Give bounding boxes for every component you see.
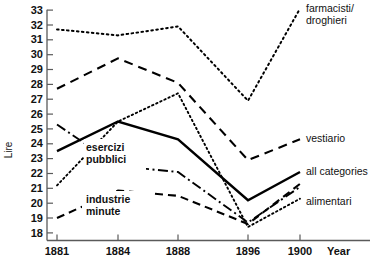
y-tick-label: 31 <box>31 33 43 45</box>
y-tick-labels: 18 19 20 21 22 23 24 25 26 27 28 29 30 3… <box>31 4 44 239</box>
alimentari-label: alimentari <box>306 195 352 207</box>
y-tick-label: 30 <box>31 48 43 60</box>
y-tick-label: 29 <box>31 63 43 75</box>
y-tick-marks <box>47 10 53 233</box>
farmacisti-droghieri-label: farmacisti/ droghieri <box>306 2 354 26</box>
vestiario-label: vestiario <box>306 132 345 144</box>
x-tick-label: 1900 <box>288 245 312 257</box>
x-tick-label: 1888 <box>166 245 190 257</box>
y-tick-label: 22 <box>31 167 43 179</box>
y-tick-label: 20 <box>31 197 43 209</box>
y-axis-label: Lire <box>3 141 14 158</box>
x-tick-label: 1884 <box>106 245 131 257</box>
y-tick-label: 27 <box>31 93 43 105</box>
chart-svg: Lire 18 19 20 21 22 23 24 25 26 27 28 29… <box>0 0 379 269</box>
x-axis-label: Year <box>327 245 351 257</box>
esercizi-pubblici-annotation: esercizi pubblici <box>86 141 126 165</box>
y-tick-label: 33 <box>31 4 43 16</box>
y-tick-label: 25 <box>31 123 43 135</box>
farmacisti-droghieri-label-line2: droghieri <box>306 14 347 26</box>
y-tick-label: 23 <box>31 152 43 164</box>
x-tick-label: 1881 <box>45 245 69 257</box>
y-tick-label: 26 <box>31 108 43 120</box>
x-tick-marks <box>57 235 300 241</box>
line-chart: Lire 18 19 20 21 22 23 24 25 26 27 28 29… <box>0 0 379 269</box>
x-tick-labels: 1881 1884 1888 1896 1900 Year <box>45 245 351 257</box>
y-tick-label: 21 <box>31 182 43 194</box>
esercizi-pubblici-annotation-line2: pubblici <box>86 153 126 165</box>
x-tick-label: 1896 <box>236 245 260 257</box>
industrie-minute-annotation-line1: industrie <box>86 193 130 205</box>
y-tick-label: 28 <box>31 78 43 90</box>
series-line-farmacisti-droghieri-visible <box>57 9 300 101</box>
all-categories-label: all categories <box>306 165 368 177</box>
industrie-minute-annotation-line2: minute <box>86 205 121 217</box>
y-tick-label: 24 <box>31 137 44 149</box>
y-tick-label: 19 <box>31 212 43 224</box>
esercizi-pubblici-annotation-line1: esercizi <box>86 141 125 153</box>
y-tick-label: 18 <box>31 227 43 239</box>
farmacisti-droghieri-label-line1: farmacisti/ <box>306 2 354 14</box>
y-tick-label: 32 <box>31 19 43 31</box>
